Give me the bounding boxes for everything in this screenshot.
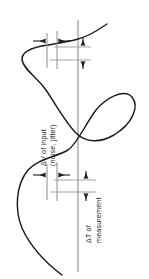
waveform-curve xyxy=(17,24,135,275)
delta-v-label-line1: ΔV of input xyxy=(39,129,48,166)
figure-root: ΔV of input (noise, jitter) ΔT of measur… xyxy=(0,0,149,279)
delta-v-label-line2: (noise, jitter) xyxy=(48,124,57,166)
waveform-diagram: ΔV of input (noise, jitter) ΔT of measur… xyxy=(0,0,149,279)
delta-t-label-line2: measurement xyxy=(94,197,103,243)
delta-t-label-line1: ΔT of xyxy=(84,225,93,243)
